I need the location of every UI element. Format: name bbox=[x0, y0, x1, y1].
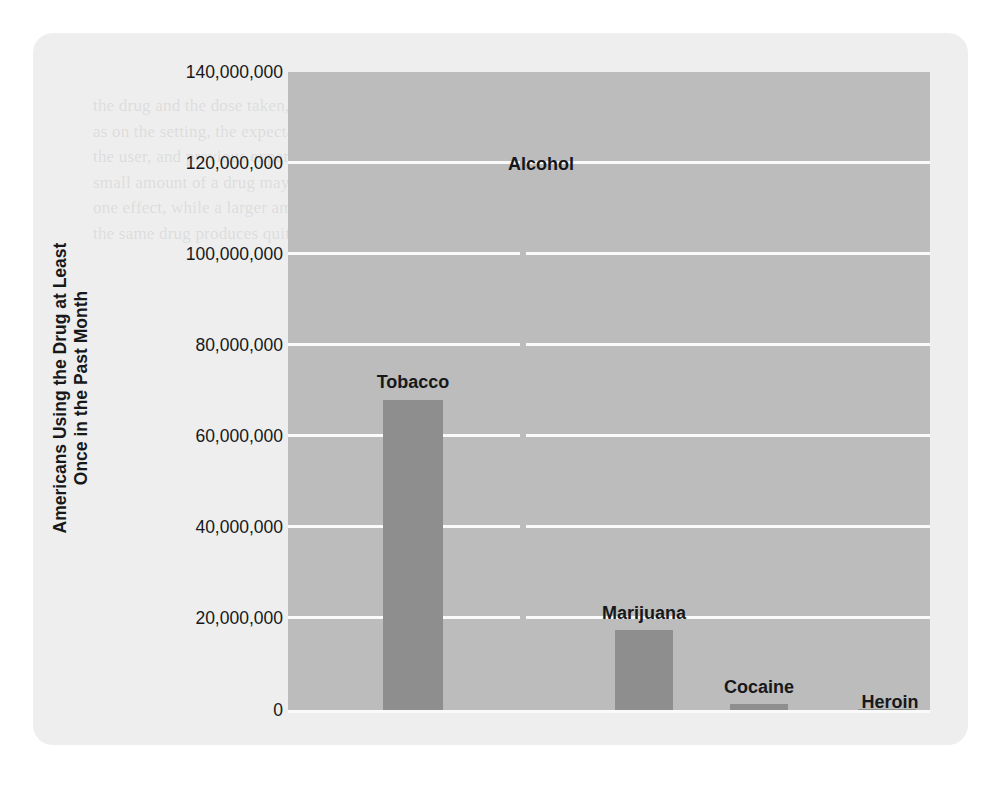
y-tick-120m: 120,000,000 bbox=[143, 153, 283, 174]
y-tick-zero: 0 bbox=[143, 700, 283, 721]
bar-label-cocaine: Cocaine bbox=[724, 677, 794, 698]
y-tick-60m: 60,000,000 bbox=[143, 426, 283, 447]
bar-chart: Americans Using the Drug at Least Once i… bbox=[33, 33, 968, 745]
gridline-120m bbox=[288, 161, 930, 164]
bar-tobacco[interactable] bbox=[383, 400, 443, 710]
bar-label-alcohol: Alcohol bbox=[508, 154, 574, 175]
bar-label-tobacco: Tobacco bbox=[377, 372, 450, 393]
bar-label-marijuana: Marijuana bbox=[602, 603, 686, 624]
gridline-100m bbox=[288, 252, 930, 255]
y-axis-title: Americans Using the Drug at Least Once i… bbox=[49, 173, 93, 603]
y-axis-tick-labels: 140,000,000 120,000,000 100,000,000 80,0… bbox=[143, 33, 283, 745]
y-tick-80m: 80,000,000 bbox=[143, 335, 283, 356]
chart-card: the drug and the dose taken, as well as … bbox=[33, 33, 968, 745]
y-axis-title-line1: Americans Using the Drug at Least bbox=[50, 243, 70, 534]
y-tick-40m: 40,000,000 bbox=[143, 517, 283, 538]
gridline-80m bbox=[288, 343, 930, 346]
y-tick-140m: 140,000,000 bbox=[143, 62, 283, 83]
x-axis-baseline bbox=[288, 710, 930, 713]
scanned-page: the drug and the dose taken, as well as … bbox=[0, 0, 1003, 796]
y-axis-title-line2: Once in the Past Month bbox=[71, 291, 91, 485]
y-tick-100m: 100,000,000 bbox=[143, 244, 283, 265]
bar-marijuana[interactable] bbox=[615, 630, 673, 710]
plot-area: Alcohol Tobacco Marijuana Cocaine Heroin bbox=[288, 72, 930, 710]
y-tick-20m: 20,000,000 bbox=[143, 608, 283, 629]
